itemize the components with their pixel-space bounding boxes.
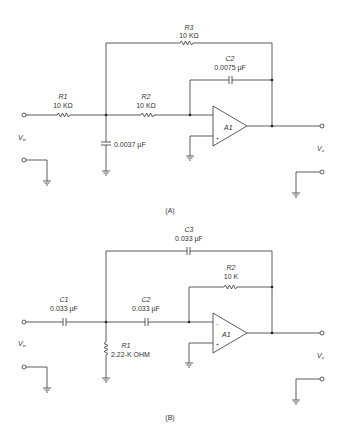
output-terminal-b (320, 331, 324, 335)
resistor-r2-b (224, 285, 237, 289)
resistor-r1-a (57, 113, 70, 117)
value-c1-b: 0.033 µF (50, 305, 78, 313)
ground-icon (102, 171, 110, 175)
label-opamp-a: A1 (223, 124, 233, 131)
caption-a: (A) (165, 207, 174, 215)
value-c3-b: 0.033 µF (175, 235, 203, 243)
label-opamp-b: A1 (221, 331, 231, 338)
value-r1-a: 10 KΩ (53, 102, 73, 109)
resistor-r1-b (104, 342, 108, 355)
circuit-b: C3 0.033 µF R2 10 K C1 0.033 µF C2 0.033… (18, 226, 325, 422)
value-c2-b: 0.033 µF (132, 305, 160, 313)
label-r2-a: R2 (142, 93, 151, 100)
circuit-a: R3 10 KΩ C2 0.0075 µF R1 10 KΩ R2 10 KΩ … (18, 24, 325, 215)
output-terminal-a (320, 124, 324, 128)
input-terminal-b (22, 320, 26, 324)
value-r1-b: 2.22-K OHM (111, 351, 150, 358)
ground-icon (102, 378, 110, 382)
label-c2-b: C2 (142, 296, 151, 303)
value-c1-a: 0.0037 µF (114, 141, 146, 149)
label-vout-b: Vo (317, 352, 325, 360)
value-r2-b: 10 K (224, 273, 239, 280)
plus-sign-b: + (216, 341, 219, 347)
label-c3-b: C3 (185, 226, 194, 233)
value-c2-a: 0.0075 µF (214, 64, 246, 72)
caption-b: (B) (165, 414, 174, 422)
minus-sign-b: − (216, 321, 219, 327)
label-r2-b: R2 (227, 264, 236, 271)
ground-icon (292, 400, 300, 404)
label-c1-b: C1 (60, 296, 69, 303)
label-r3-a: R3 (185, 24, 194, 31)
ground-icon (186, 156, 194, 160)
label-vout-a: Vo (317, 145, 325, 153)
input-terminal-a (22, 113, 26, 117)
label-vin-b: Vin (18, 340, 27, 348)
ground-icon (292, 193, 300, 197)
ground-icon (43, 181, 51, 185)
label-r1-b: R1 (122, 342, 131, 349)
ground-icon (185, 363, 193, 367)
value-r3-a: 10 KΩ (179, 32, 199, 39)
resistor-r3-a (180, 41, 193, 45)
resistor-r2-a (141, 113, 154, 117)
label-c2-a: C2 (226, 55, 235, 62)
label-vin-a: Vin (18, 134, 27, 142)
ground-icon (43, 388, 51, 392)
schematic-canvas: R3 10 KΩ C2 0.0075 µF R1 10 KΩ R2 10 KΩ … (0, 0, 341, 438)
plus-sign-a: + (216, 135, 219, 141)
value-r2-a: 10 KΩ (136, 102, 156, 109)
label-r1-a: R1 (59, 93, 68, 100)
